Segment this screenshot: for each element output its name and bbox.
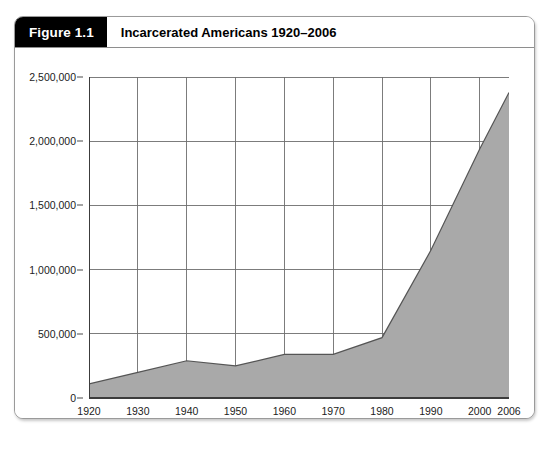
x-axis-tick-label: 1940 xyxy=(175,405,198,417)
y-axis-labels: 0500,0001,000,0001,500,0002,000,0002,500… xyxy=(15,77,83,399)
figure-card: Figure 1.1 Incarcerated Americans 1920–2… xyxy=(14,16,535,419)
area-series-fill xyxy=(89,92,509,398)
y-axis-tick xyxy=(77,398,83,399)
y-axis-tick-label: 2,000,000 xyxy=(29,135,76,147)
y-axis-tick xyxy=(77,141,83,142)
figure-header: Figure 1.1 Incarcerated Americans 1920–2… xyxy=(15,17,534,48)
area-chart-svg xyxy=(89,77,509,399)
figure-number-tag: Figure 1.1 xyxy=(15,17,107,47)
y-axis-tick xyxy=(77,269,83,270)
y-axis-tick xyxy=(77,333,83,334)
y-axis-tick-label: 1,500,000 xyxy=(29,199,76,211)
chart-body: 0500,0001,000,0001,500,0002,000,0002,500… xyxy=(15,48,534,418)
x-axis-labels: 1920193019401950196019701980199020002006 xyxy=(89,405,509,419)
plot-area xyxy=(89,77,509,399)
x-axis-tick-label: 2000 xyxy=(468,405,491,417)
y-axis-tick-label: 500,000 xyxy=(38,328,76,340)
x-axis-tick-label: 1950 xyxy=(224,405,247,417)
x-axis-tick-label: 1930 xyxy=(126,405,149,417)
x-axis-tick-label: 1960 xyxy=(273,405,296,417)
x-axis-tick-label: 1970 xyxy=(321,405,344,417)
x-axis-tick-label: 2006 xyxy=(497,405,520,417)
y-axis-tick-label: 1,000,000 xyxy=(29,264,76,276)
figure-title: Incarcerated Americans 1920–2006 xyxy=(107,17,534,47)
y-axis-tick-label: 0 xyxy=(70,392,76,404)
y-axis-tick xyxy=(77,205,83,206)
x-axis-tick-label: 1990 xyxy=(419,405,442,417)
y-axis-tick-label: 2,500,000 xyxy=(29,71,76,83)
x-axis-tick-label: 1920 xyxy=(77,405,100,417)
x-axis-tick-label: 1980 xyxy=(370,405,393,417)
y-axis-tick xyxy=(77,77,83,78)
